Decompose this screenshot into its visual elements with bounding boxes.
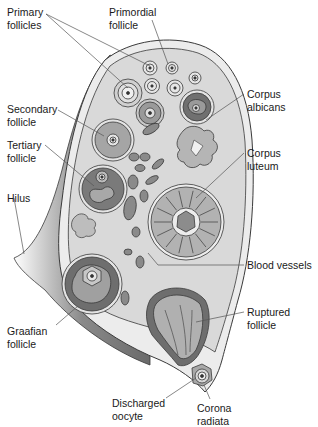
label-corpus-luteum: Corpus luteum <box>247 147 281 172</box>
label-hilus: Hilus <box>7 192 30 205</box>
corpus-luteum <box>148 184 224 260</box>
label-ruptured-follicle: Ruptured follicle <box>247 306 290 331</box>
label-secondary-follicle: Secondary follicle <box>7 103 57 128</box>
label-corona-radiata: Corona radiata <box>197 402 231 427</box>
degenerating-follicle <box>180 90 214 124</box>
label-discharged-oocyte: Discharged oocyte <box>112 397 165 422</box>
tertiary-follicle <box>79 165 127 213</box>
primary-follicle <box>114 79 142 107</box>
label-tertiary-follicle: Tertiary follicle <box>7 139 41 164</box>
label-blood-vessels: Blood vessels <box>247 259 312 272</box>
label-corpus-albicans: Corpus albicans <box>247 88 286 113</box>
secondary-follicle-large <box>92 119 134 161</box>
graafian-follicle <box>62 254 122 314</box>
label-primary-follicles: Primary follicles <box>7 6 43 31</box>
secondary-follicle <box>136 99 164 127</box>
label-graafian-follicle: Graafian follicle <box>7 325 47 350</box>
label-primordial-follicle: Primordial follicle <box>109 6 156 31</box>
